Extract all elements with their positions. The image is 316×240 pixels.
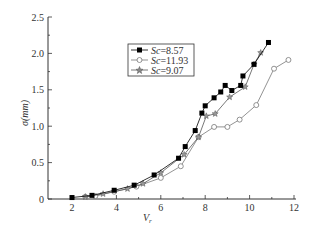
svg-text:Sc=9.07: Sc=9.07 bbox=[151, 65, 184, 76]
open-circle-marker-icon bbox=[137, 58, 142, 63]
data-point bbox=[286, 57, 291, 62]
y-axis-label: σ(mm) bbox=[19, 99, 31, 126]
data-point bbox=[89, 193, 94, 198]
y-tick-label: 1.0 bbox=[32, 121, 45, 132]
y-tick-label: 2.0 bbox=[32, 48, 45, 59]
data-point bbox=[70, 195, 75, 200]
y-tick-label: 2.5 bbox=[32, 12, 45, 23]
data-point bbox=[112, 188, 117, 193]
data-point bbox=[272, 66, 277, 71]
data-point bbox=[252, 62, 257, 67]
x-tick-label: 4 bbox=[114, 202, 119, 213]
line-chart: 00.51.01.52.02.524681012 Sc=8.57 Sc=11.9… bbox=[0, 0, 316, 240]
data-point bbox=[218, 89, 223, 94]
series-sc-11-93 bbox=[83, 57, 291, 199]
data-point bbox=[212, 124, 217, 129]
y-tick-label: 0.5 bbox=[32, 157, 45, 168]
data-point bbox=[223, 83, 228, 88]
x-axis-label: Vr bbox=[143, 212, 152, 225]
data-point bbox=[212, 95, 217, 100]
x-tick-label: 6 bbox=[158, 202, 163, 213]
data-point bbox=[152, 172, 157, 177]
data-point bbox=[240, 73, 245, 78]
data-point bbox=[237, 117, 242, 122]
data-point bbox=[225, 124, 230, 129]
data-point bbox=[254, 103, 259, 108]
data-point bbox=[229, 88, 234, 93]
data-point bbox=[238, 83, 243, 88]
legend: Sc=8.57 Sc=11.93 Sc=9.07 bbox=[128, 44, 194, 76]
data-point bbox=[199, 111, 204, 116]
data-point bbox=[178, 164, 183, 169]
x-tick-label: 8 bbox=[203, 202, 208, 213]
axes: 00.51.01.52.02.524681012 bbox=[32, 12, 300, 214]
y-tick-label: 0 bbox=[39, 194, 44, 205]
data-point bbox=[203, 103, 208, 108]
data-point bbox=[193, 128, 198, 133]
x-tick-label: 12 bbox=[289, 202, 299, 213]
data-point bbox=[183, 144, 188, 149]
data-point bbox=[227, 94, 233, 100]
x-tick-label: 2 bbox=[70, 202, 75, 213]
y-tick-label: 1.5 bbox=[32, 84, 45, 95]
x-tick-label: 10 bbox=[245, 202, 255, 213]
data-point bbox=[176, 156, 181, 161]
data-point bbox=[132, 183, 137, 188]
data-point bbox=[158, 175, 163, 180]
filled-square-marker-icon bbox=[137, 48, 142, 53]
data-point bbox=[266, 40, 271, 45]
